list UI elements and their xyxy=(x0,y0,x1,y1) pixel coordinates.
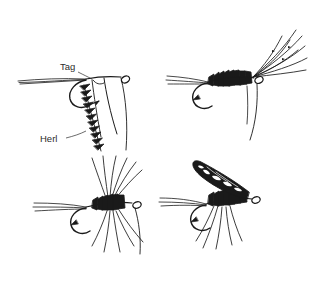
fly-tying-figure: Tag Herl xyxy=(0,0,309,288)
figure-background xyxy=(0,0,309,288)
label-herl: Herl xyxy=(40,133,57,144)
label-tag: Tag xyxy=(60,61,75,72)
